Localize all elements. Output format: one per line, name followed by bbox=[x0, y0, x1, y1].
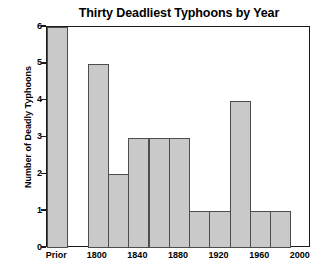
bar bbox=[169, 138, 190, 249]
bar bbox=[149, 138, 170, 249]
bar bbox=[47, 27, 68, 248]
y-axis-label: Number of Deadly Typhoons bbox=[23, 47, 33, 207]
chart-figure: Thirty Deadliest Typhoons by Year Number… bbox=[0, 0, 322, 275]
bar bbox=[189, 211, 210, 248]
bar bbox=[88, 64, 109, 248]
bar bbox=[128, 138, 149, 249]
bar-series bbox=[47, 27, 311, 248]
bar bbox=[270, 211, 291, 248]
bar bbox=[209, 211, 230, 248]
plot-area bbox=[46, 26, 310, 247]
chart-title: Thirty Deadliest Typhoons by Year bbox=[48, 6, 310, 20]
x-tick-label: 2000 bbox=[275, 250, 322, 260]
bar bbox=[250, 211, 271, 248]
y-tick-label: 6 bbox=[12, 22, 42, 31]
y-tick-label: 1 bbox=[12, 206, 42, 215]
bar bbox=[230, 101, 251, 248]
bar bbox=[108, 174, 129, 248]
